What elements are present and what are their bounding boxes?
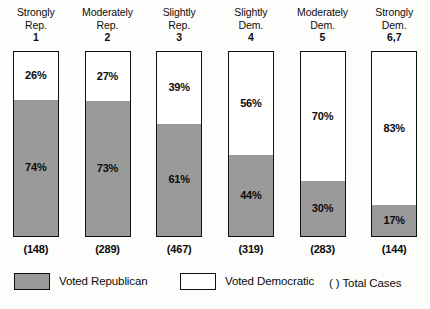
column-header-scale-number: 1 — [17, 31, 55, 44]
column-header-line1: Slightly — [163, 6, 196, 19]
column-header-scale-number: 4 — [234, 31, 267, 44]
column-header-line1: Moderately — [82, 6, 133, 19]
chart-columns: StronglyRep.126%74%(148)ModeratelyRep.22… — [0, 6, 430, 264]
column-header: ModeratelyRep.2 — [82, 6, 133, 44]
bar-segment-label-democratic: 26% — [25, 70, 46, 81]
legend-label-democratic: Voted Democratic — [225, 275, 314, 287]
legend-label-republican: Voted Republican — [59, 275, 148, 287]
column-header-line1: Slightly — [234, 6, 267, 19]
column-header-scale-number: 3 — [163, 31, 196, 44]
bar-segment-label-republican: 61% — [168, 174, 189, 185]
stacked-bar: 39%61% — [156, 51, 202, 237]
column-header-line1: Strongly — [17, 6, 55, 19]
column-header-line2: Rep. — [163, 19, 196, 32]
bar-segment-label-republican: 44% — [240, 190, 261, 201]
chart-legend: Voted Republican Voted Democratic ( ) To… — [0, 272, 430, 294]
chart-column: StronglyRep.126%74%(148) — [0, 6, 72, 255]
legend-item-voted-democratic: Voted Democratic — [180, 272, 314, 290]
bar-segment-republican: 61% — [157, 124, 201, 236]
legend-item-voted-republican: Voted Republican — [14, 272, 148, 290]
stacked-bar: 70%30% — [300, 51, 346, 237]
stacked-bar: 27%73% — [85, 51, 131, 237]
bar-segment-label-democratic: 39% — [168, 82, 189, 93]
chart-column: ModeratelyDem.570%30%(283) — [287, 6, 359, 255]
legend-item-total-cases: ( ) Total Cases — [329, 274, 401, 292]
bar-segment-democratic: 39% — [157, 52, 201, 124]
column-header: ModeratelyDem.5 — [297, 6, 348, 44]
column-header-line2: Dem. — [375, 19, 413, 32]
bar-segment-democratic: 27% — [86, 52, 130, 102]
column-header-line2: Dem. — [234, 19, 267, 32]
bar-segment-republican: 17% — [372, 205, 416, 236]
legend-swatch-democratic — [180, 273, 216, 290]
stacked-bar: 26%74% — [13, 51, 59, 237]
bar-segment-label-democratic: 27% — [97, 71, 118, 82]
stacked-bar: 83%17% — [371, 51, 417, 237]
column-header: SlightlyRep.3 — [163, 6, 196, 44]
bar-segment-label-republican: 73% — [97, 163, 118, 174]
bar-segment-label-democratic: 56% — [240, 98, 261, 109]
column-total-cases: (283) — [310, 243, 335, 255]
bar-segment-republican: 44% — [229, 155, 273, 236]
chart-column: SlightlyDem.456%44%(319) — [215, 6, 287, 255]
column-header-scale-number: 2 — [82, 31, 133, 44]
column-header-scale-number: 5 — [297, 31, 348, 44]
column-header-line1: Moderately — [297, 6, 348, 19]
column-header: StronglyRep.1 — [17, 6, 55, 44]
column-header: SlightlyDem.4 — [234, 6, 267, 44]
column-total-cases: (144) — [382, 243, 407, 255]
column-header-line2: Dem. — [297, 19, 348, 32]
bar-segment-label-democratic: 83% — [383, 123, 404, 134]
bar-segment-democratic: 83% — [372, 52, 416, 205]
column-total-cases: (148) — [23, 243, 48, 255]
bar-segment-label-republican: 30% — [312, 203, 333, 214]
stacked-bar: 56%44% — [228, 51, 274, 237]
bar-segment-label-democratic: 70% — [312, 111, 333, 122]
bar-segment-democratic: 56% — [229, 52, 273, 155]
column-header-line2: Rep. — [17, 19, 55, 32]
column-header-line2: Rep. — [82, 19, 133, 32]
column-header: StronglyDem.6,7 — [375, 6, 413, 44]
column-total-cases: (467) — [167, 243, 192, 255]
bar-segment-republican: 74% — [14, 100, 58, 236]
column-header-scale-number: 6,7 — [375, 31, 413, 44]
legend-swatch-republican — [14, 273, 50, 290]
bar-segment-label-republican: 74% — [25, 162, 46, 173]
chart-column: ModeratelyRep.227%73%(289) — [72, 6, 144, 255]
chart-column: SlightlyRep.339%61%(467) — [143, 6, 215, 255]
bar-segment-republican: 30% — [301, 181, 345, 236]
column-total-cases: (319) — [239, 243, 264, 255]
column-total-cases: (289) — [95, 243, 120, 255]
stacked-bar-chart-figure: StronglyRep.126%74%(148)ModeratelyRep.22… — [0, 0, 430, 309]
chart-column: StronglyDem.6,783%17%(144) — [358, 6, 430, 255]
bar-segment-democratic: 70% — [301, 52, 345, 181]
column-header-line1: Strongly — [375, 6, 413, 19]
bar-segment-republican: 73% — [86, 101, 130, 235]
bar-segment-label-republican: 17% — [383, 215, 404, 226]
bar-segment-democratic: 26% — [14, 52, 58, 100]
